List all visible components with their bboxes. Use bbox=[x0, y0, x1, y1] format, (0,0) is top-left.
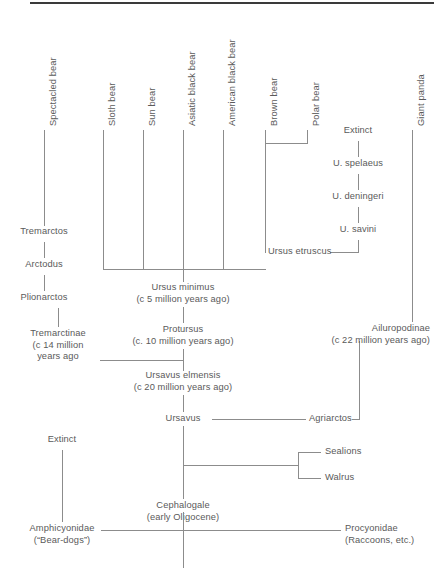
join-u-savini-to-ursus-etruscus bbox=[330, 252, 359, 253]
taxon-label-sun-bear: Sun bear bbox=[147, 87, 157, 126]
node-plionarctos: Plionarctos bbox=[20, 292, 67, 304]
node-tremarctinae-age-1: (c 14 million bbox=[30, 340, 86, 352]
node-amphicyonidae-common: (“Bear-dogs”) bbox=[30, 535, 95, 547]
node-procyonidae: Procyonidae (Raccoons, etc.) bbox=[345, 523, 414, 546]
branch-tremarctos-to-arctodus bbox=[44, 242, 45, 258]
node-u-spelaeus: U. spelaeus bbox=[333, 158, 383, 170]
branch-pinniped-stem bbox=[184, 465, 299, 466]
join-tremarctinae-to-trunk bbox=[100, 360, 184, 361]
node-protursus: Protursus (c. 10 million years ago) bbox=[132, 324, 233, 347]
node-amphicyonidae: Amphicyonidae (“Bear-dogs”) bbox=[30, 523, 95, 546]
node-cephalogale-name: Cephalogale bbox=[147, 500, 220, 512]
node-procyonidae-name: Procyonidae bbox=[345, 523, 414, 535]
taxon-label-spectacled-bear: Spectacled bear bbox=[48, 57, 58, 126]
taxon-label-giant-panda: Giant panda bbox=[416, 74, 426, 126]
node-extinct-bear-dogs: Extinct bbox=[48, 434, 77, 446]
node-ursus-minimus: Ursus minimus (c 5 million years ago) bbox=[136, 282, 229, 305]
branch-extinct-to-amphicyonidae bbox=[62, 450, 63, 522]
branch-extinct-to-u-spelaeus bbox=[358, 141, 359, 157]
node-sealions: Sealions bbox=[325, 446, 361, 458]
branch-sloth-bear bbox=[103, 130, 104, 270]
branch-sun-bear bbox=[143, 130, 144, 270]
branch-giant-panda bbox=[412, 130, 413, 322]
node-agriarctos: Agriarctos bbox=[309, 413, 352, 425]
branch-ursavus-elmensis-to-ursavus bbox=[183, 395, 184, 412]
branch-u-deningeri-to-u-savini bbox=[358, 207, 359, 223]
node-ursavus-elmensis: Ursavus elmensis (c 20 million years ago… bbox=[134, 370, 233, 393]
top-divider-rule bbox=[30, 2, 434, 4]
phylogenetic-tree-diagram: Spectacled bear Sloth bear Sun bear Asia… bbox=[0, 0, 440, 582]
branch-u-spelaeus-to-u-deningeri bbox=[358, 174, 359, 190]
branch-plionarctos-to-tremarctinae bbox=[58, 308, 59, 327]
taxon-label-sloth-bear: Sloth bear bbox=[107, 83, 117, 126]
node-ailuropodinae-age: (c 22 million years ago) bbox=[331, 335, 430, 347]
node-ursus-minimus-age: (c 5 million years ago) bbox=[136, 294, 229, 306]
node-ursavus: Ursavus bbox=[166, 413, 201, 425]
node-tremarctos: Tremarctos bbox=[20, 226, 68, 238]
taxon-label-brown-bear: Brown bear bbox=[269, 77, 279, 126]
trunk-ursavus-to-cephalogale bbox=[183, 426, 184, 499]
node-tremarctinae-age-2: years ago bbox=[30, 351, 86, 363]
join-bar-ursus-minimus bbox=[103, 269, 266, 270]
node-ailuropodinae-name: Ailuropodinae bbox=[331, 323, 430, 335]
node-arctodus: Arctodus bbox=[25, 259, 63, 271]
node-ursavus-elmensis-age: (c 20 million years ago) bbox=[134, 382, 233, 394]
branch-brown-polar-stem bbox=[265, 143, 266, 253]
node-ailuropodinae: Ailuropodinae (c 22 million years ago) bbox=[331, 323, 430, 346]
branch-asiatic-black-bear bbox=[183, 130, 184, 282]
taxon-label-polar-bear: Polar bear bbox=[311, 82, 321, 126]
branch-american-black-bear bbox=[223, 130, 224, 270]
branch-brown-bear bbox=[265, 130, 266, 144]
branch-ailuropodinae-stem bbox=[359, 341, 360, 420]
branch-spectacled-bear bbox=[44, 130, 45, 226]
node-ursus-etruscus: Ursus etruscus bbox=[268, 246, 331, 258]
branch-to-walrus bbox=[298, 478, 321, 479]
node-u-savini: U. savini bbox=[340, 224, 377, 236]
node-ursavus-elmensis-name: Ursavus elmensis bbox=[134, 370, 233, 382]
branch-ursus-minimus-to-protursus bbox=[183, 307, 184, 323]
trunk-base bbox=[183, 512, 184, 568]
node-u-deningeri: U. deningeri bbox=[332, 191, 383, 203]
taxon-label-asiatic-black-bear: Asiatic black bear bbox=[187, 51, 197, 126]
node-amphicyonidae-name: Amphicyonidae bbox=[30, 523, 95, 535]
join-brown-polar-bear bbox=[265, 143, 308, 144]
branch-polar-bear bbox=[307, 130, 308, 144]
node-extinct-cave-bear: Extinct bbox=[344, 125, 373, 137]
node-ursus-minimus-name: Ursus minimus bbox=[136, 282, 229, 294]
node-walrus: Walrus bbox=[325, 472, 354, 484]
node-procyonidae-common: (Raccoons, etc.) bbox=[345, 535, 414, 547]
taxon-label-american-black-bear: American black bear bbox=[227, 39, 237, 126]
bracket-pinniped-vertical bbox=[298, 452, 299, 479]
join-ursavus-to-agriarctos bbox=[212, 419, 306, 420]
node-protursus-name: Protursus bbox=[132, 324, 233, 336]
basal-horizontal-line bbox=[101, 530, 341, 531]
branch-to-sealions bbox=[298, 452, 321, 453]
node-tremarctinae: Tremarctinae (c 14 million years ago bbox=[30, 328, 86, 363]
node-protursus-age: (c. 10 million years ago) bbox=[132, 336, 233, 348]
branch-arctodus-to-plionarctos bbox=[44, 275, 45, 291]
node-tremarctinae-name: Tremarctinae bbox=[30, 328, 86, 340]
